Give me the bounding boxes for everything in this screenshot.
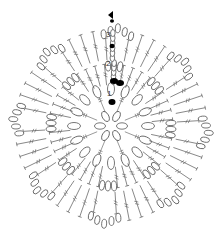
round2-stitch: [77, 74, 88, 92]
round3-stitch: [124, 191, 130, 220]
round2-stitch: [54, 143, 73, 152]
round2-stitch: [149, 141, 169, 148]
round1-chain: [91, 84, 102, 99]
stitch-slash: [50, 73, 54, 74]
round1-chain: [119, 153, 130, 168]
stitch-slash: [135, 204, 139, 205]
round3-scallop-chain: [200, 137, 210, 143]
round3-stitch: [147, 181, 159, 199]
stitch-slash: [60, 181, 61, 185]
round3-scallop-chain: [201, 123, 210, 128]
round2-stitch: [80, 162, 90, 180]
stitch-top-bar: [30, 71, 32, 74]
round3-scallop-chain: [9, 116, 18, 122]
stitch-slash: [79, 163, 81, 167]
round2-stitch: [53, 104, 73, 111]
round3-scallop-chain: [11, 124, 20, 129]
round2-stitch: [59, 148, 77, 159]
round3-stitch: [17, 139, 46, 145]
round3-stitch: [170, 155, 197, 168]
stitch-slash: [161, 67, 162, 71]
round3-scallop-chain: [156, 199, 165, 209]
stitch-top-bar: [16, 142, 17, 146]
round3-scallop-chain: [116, 213, 122, 222]
round3-stitch: [93, 32, 99, 61]
stitch-slash: [60, 106, 63, 109]
round2-stitch: [128, 163, 137, 182]
round3-scallop-chain: [196, 143, 206, 150]
join-marker: [109, 99, 116, 105]
round2-stitch: [57, 95, 75, 105]
stitch-slash: [142, 85, 144, 89]
round2-stitch: [126, 68, 133, 88]
round2-stitch: [143, 152, 159, 165]
round3-scallop-chain: [94, 215, 100, 225]
round-label-1: 1: [107, 89, 112, 98]
round3-scallop-chain: [28, 171, 38, 180]
round3-stitch: [57, 181, 74, 206]
round3-stitch: [148, 46, 165, 71]
round3-scallop-chain: [101, 219, 107, 228]
round3-scallop-chain: [30, 178, 40, 187]
stitch-slash: [84, 50, 88, 51]
round3-stitch: [53, 175, 68, 191]
round2-stitch: [151, 110, 171, 115]
stitch-slash: [62, 107, 65, 110]
stitch-slash: [150, 158, 154, 160]
crochet-chart: 123 Crochet motif chart: [0, 0, 223, 237]
round3-scallop-chain: [88, 211, 95, 221]
round2-chain: [166, 120, 176, 126]
round-label-2: 2: [106, 59, 111, 68]
stitch-slash: [92, 171, 95, 174]
round2-chain: [111, 181, 117, 191]
round3-stitch: [155, 60, 170, 76]
stitch-slash: [134, 201, 138, 202]
round3-stitch: [177, 121, 199, 122]
round2-chain: [166, 126, 176, 132]
round2-stitch: [147, 146, 165, 156]
round2-stitch: [63, 87, 79, 100]
round3-scallop-chain: [122, 27, 128, 37]
round3-scallop-chain: [16, 103, 26, 110]
stitch-slash: [186, 99, 187, 103]
stitch-slash: [83, 48, 87, 49]
round3-stitch: [20, 95, 48, 105]
round3-stitch: [25, 83, 52, 96]
stitch-top-bar: [189, 178, 191, 181]
round2-chain: [46, 114, 57, 121]
round2-stitch: [89, 164, 96, 184]
round2-stitch: [95, 66, 100, 86]
round3-stitch: [20, 147, 48, 157]
round3-scallop-chain: [184, 72, 194, 81]
round3-stitch: [81, 35, 91, 63]
stitch-slash: [68, 92, 72, 94]
round3-stitch: [80, 188, 90, 216]
round3-stitch: [140, 40, 153, 67]
round3-stitch: [132, 189, 142, 217]
stitch-slash: [58, 183, 59, 187]
round3-scallop-chain: [12, 109, 22, 115]
round1-chain: [68, 123, 81, 130]
start-triangle-marker: [108, 11, 113, 19]
stitch-slash: [143, 83, 145, 87]
round2-stitch: [148, 101, 167, 110]
round2-chain: [46, 126, 56, 132]
round3-scallop-chain: [204, 130, 213, 136]
stitch-slash: [166, 176, 170, 177]
round3-stitch: [115, 192, 116, 214]
round2-stitch: [51, 137, 71, 142]
stitch-slash: [77, 165, 79, 169]
round3-scallop-chain: [115, 24, 121, 33]
round3-stitch: [166, 163, 191, 180]
stitch-slash: [168, 177, 172, 178]
round3-stitch: [45, 68, 61, 83]
stitch-slash: [33, 150, 34, 154]
round3-scallop-chain: [182, 65, 192, 74]
stitch-slash: [91, 174, 94, 177]
round1-chain: [78, 93, 92, 107]
round3-scallop-chain: [57, 43, 66, 53]
round3-stitch: [166, 77, 184, 89]
round3-stitch: [106, 38, 107, 60]
stitch-slash: [148, 157, 152, 159]
round2-stitch: [133, 160, 144, 178]
